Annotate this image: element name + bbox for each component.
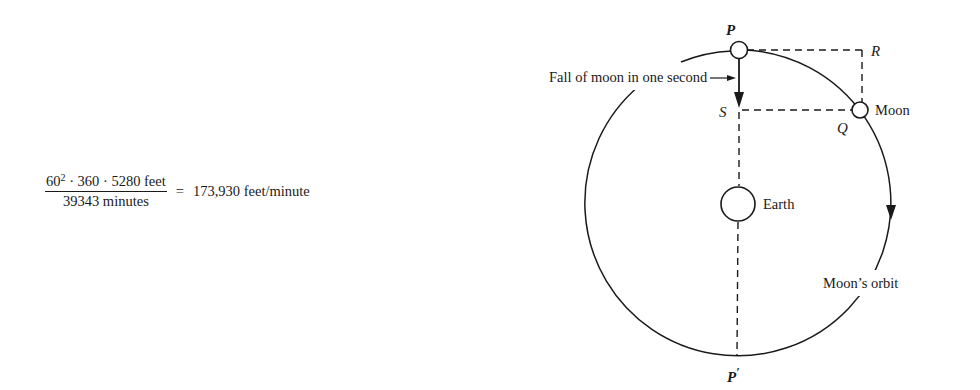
orbit-direction-arrow-icon <box>886 205 896 220</box>
label-moon: Moon <box>875 102 910 118</box>
label-earth: Earth <box>763 196 795 212</box>
label-P-prime: P′ <box>727 365 740 385</box>
moon-orbit-diagram: P R S Q Moon Earth Moon’s orbit Fall of … <box>0 0 980 390</box>
fall-pointer-arrow-icon <box>727 75 736 81</box>
earth-icon <box>721 187 755 221</box>
moon-at-P-icon <box>731 42 748 59</box>
label-P-prime-mark: ′ <box>736 365 739 379</box>
label-S: S <box>719 104 727 120</box>
orbit-arc-top-left <box>681 51 732 62</box>
dashed-line-earth-Pprime <box>737 222 738 356</box>
moon-at-Q-icon <box>852 102 868 118</box>
label-fall-of-moon: Fall of moon in one second <box>549 69 708 85</box>
label-R: R <box>870 43 880 59</box>
label-Q: Q <box>837 120 848 136</box>
fall-arrow-head-icon <box>734 92 744 108</box>
label-moons-orbit: Moon’s orbit <box>823 275 898 291</box>
label-P: P <box>726 22 736 38</box>
